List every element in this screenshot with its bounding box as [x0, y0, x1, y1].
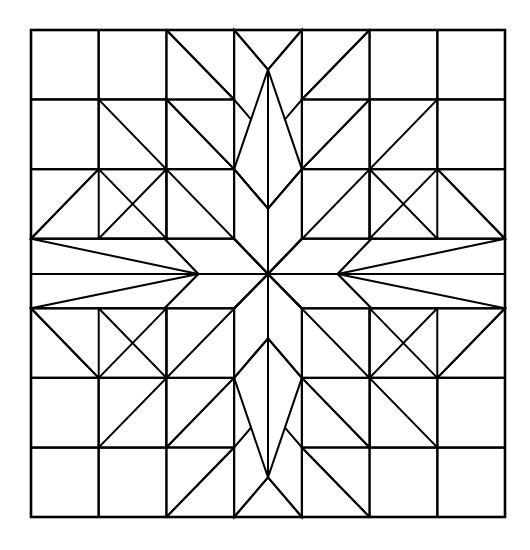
quilt-pattern-canvas: Carpenter's Star Quilt Block Line-art ge… [0, 0, 530, 550]
corner-square-br-left [370, 447, 438, 517]
corner-square-tl-right [99, 30, 167, 100]
corner-square-br-above [437, 378, 505, 448]
corner-square-tr-below [437, 100, 505, 170]
corner-square-tr-outer [437, 30, 505, 100]
corner-square-bl-right [99, 447, 167, 517]
corner-square-br-outer [437, 447, 505, 517]
corner-square-tr-left [370, 30, 438, 100]
corner-square-tl-outer [31, 30, 99, 100]
quilt-pattern-drawing: Carpenter's Star Quilt Block Line-art ge… [0, 0, 530, 550]
corner-square-bl-outer [31, 447, 99, 517]
corner-square-bl-above [31, 378, 99, 448]
seam-line-group [31, 30, 505, 517]
corner-square-tl-below [31, 100, 99, 170]
